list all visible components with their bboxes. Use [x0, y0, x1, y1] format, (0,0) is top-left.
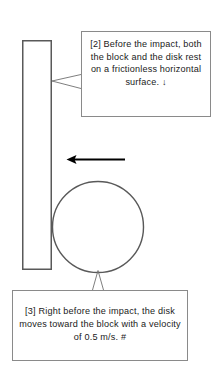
- disk-shape: [53, 182, 144, 273]
- callout-disk-note: [3] Right before the impact, the disk mo…: [12, 290, 188, 361]
- velocity-arrow-icon: [67, 155, 126, 164]
- block-callout-leader: [52, 75, 81, 89]
- figure-canvas: [2] Before the impact, both the block an…: [0, 0, 219, 376]
- callout-block-text: [2] Before the impact, both the block an…: [86, 38, 206, 88]
- disk-callout-leader: [93, 271, 104, 291]
- callout-block-note: [2] Before the impact, both the block an…: [81, 31, 211, 117]
- block-shape: [23, 41, 52, 270]
- callout-disk-text: [3] Right before the impact, the disk mo…: [19, 305, 181, 345]
